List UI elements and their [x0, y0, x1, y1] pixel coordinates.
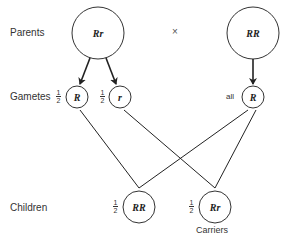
cross-symbol: ×: [172, 26, 178, 37]
gamete-3-label: all: [226, 92, 234, 101]
parent-2-genotype: RR: [245, 28, 260, 39]
gamete-3-genotype: R: [249, 92, 257, 103]
line-allR-to-RR: [139, 110, 248, 188]
row-label-gametes: Gametes: [10, 91, 51, 102]
gamete-1-fraction: 12: [55, 89, 62, 104]
gamete-2-fraction: 12: [99, 89, 106, 104]
child-1-genotype: RR: [131, 202, 146, 213]
line-r-to-Rr: [124, 110, 215, 188]
line-R-to-RR: [80, 110, 139, 188]
child-2-caption: Carriers: [196, 225, 228, 235]
gamete-2-genotype: r: [118, 92, 122, 103]
child-2-genotype: Rr: [209, 202, 221, 213]
row-label-parents: Parents: [10, 27, 44, 38]
row-label-children: Children: [10, 202, 47, 213]
gamete-1-genotype: R: [73, 92, 81, 103]
arrow-to-gamete-R: [80, 58, 90, 84]
arrow-to-gamete-r: [106, 58, 116, 84]
child-1-fraction: 12: [112, 199, 119, 214]
parent-1-genotype: Rr: [92, 28, 104, 39]
child-2-fraction: 12: [188, 199, 195, 214]
line-allR-to-Rr: [215, 110, 256, 188]
